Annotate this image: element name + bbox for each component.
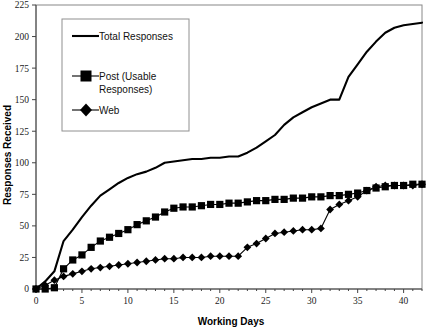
data-point-marker [308, 226, 316, 234]
x-tick-label: 30 [307, 296, 317, 306]
data-point-marker [225, 200, 232, 207]
data-point-marker [152, 256, 160, 264]
data-point-marker [317, 225, 325, 233]
data-point-marker [179, 254, 187, 262]
x-axis-ticks: 0510152025303540 [34, 289, 422, 306]
x-tick-label: 35 [353, 296, 363, 306]
data-point-marker [124, 260, 132, 268]
y-tick-label: 150 [15, 95, 30, 105]
y-tick-label: 200 [15, 32, 30, 42]
x-tick-label: 25 [261, 296, 271, 306]
x-tick-label: 5 [80, 296, 85, 306]
series-web [32, 180, 426, 293]
response-accumulation-chart: 0255075100125150175200225 05101520253035… [0, 0, 431, 332]
data-point-marker [207, 201, 214, 208]
data-point-marker [78, 251, 85, 258]
series-post-usable-responses [32, 181, 425, 293]
data-point-marker [198, 254, 206, 262]
data-point-marker [299, 226, 307, 234]
data-point-marker [51, 284, 58, 291]
data-point-marker [216, 201, 223, 208]
y-tick-label: 175 [15, 64, 30, 74]
y-tick-label: 50 [20, 221, 30, 231]
data-point-marker [69, 256, 76, 263]
data-point-marker [253, 240, 261, 248]
data-point-marker [88, 244, 95, 251]
y-tick-label: 225 [15, 0, 30, 10]
data-point-marker [106, 234, 113, 241]
data-point-marker [262, 197, 269, 204]
data-point-marker [198, 202, 205, 209]
data-point-marker [170, 205, 177, 212]
data-point-marker [207, 252, 215, 260]
data-point-marker [87, 265, 95, 273]
data-point-marker [69, 270, 77, 278]
data-point-marker [281, 196, 288, 203]
data-point-marker [271, 230, 279, 238]
data-point-marker [124, 226, 131, 233]
x-tick-label: 20 [215, 296, 225, 306]
data-point-marker [97, 237, 104, 244]
data-point-marker [280, 228, 288, 236]
x-tick-label: 40 [399, 296, 409, 306]
data-point-marker [326, 192, 333, 199]
data-point-marker [106, 262, 114, 270]
y-tick-label: 125 [15, 127, 30, 137]
data-point-marker [225, 252, 233, 260]
legend-label-web: Web [99, 105, 120, 116]
data-point-marker [179, 203, 186, 210]
data-point-marker [161, 208, 168, 215]
data-point-marker [299, 195, 306, 202]
legend-label-post-line2: Responses) [99, 84, 152, 95]
data-point-marker [335, 201, 343, 209]
data-point-marker [326, 206, 334, 214]
data-point-marker [189, 203, 196, 210]
data-point-marker [289, 227, 297, 235]
data-point-marker [133, 221, 140, 228]
x-axis-title: Working Days [198, 316, 265, 327]
data-point-marker [96, 264, 104, 272]
data-point-marker [308, 193, 315, 200]
y-tick-label: 0 [24, 284, 29, 294]
y-axis-title: Responses Received [2, 105, 13, 205]
chart-container: 0255075100125150175200225 05101520253035… [0, 0, 431, 332]
data-point-marker [235, 200, 242, 207]
data-point-marker [317, 193, 324, 200]
y-axis-ticks: 0255075100125150175200225 [15, 0, 36, 294]
y-tick-label: 25 [20, 253, 30, 263]
data-point-marker [78, 267, 86, 275]
data-point-marker [115, 261, 123, 269]
data-point-marker [142, 257, 150, 265]
data-point-marker [290, 195, 297, 202]
data-point-marker [188, 254, 196, 262]
data-point-marker [60, 265, 67, 272]
data-point-marker [216, 252, 224, 260]
data-point-marker [244, 198, 251, 205]
x-tick-label: 0 [34, 296, 39, 306]
legend-label-post-line1: Post (Usable [99, 71, 157, 82]
data-point-marker [170, 255, 178, 263]
data-point-marker [143, 217, 150, 224]
legend-square-marker-post [81, 71, 92, 82]
chart-legend: Total Responses Post (Usable Responses) … [62, 19, 189, 131]
y-tick-label: 100 [15, 158, 30, 168]
data-point-marker [253, 197, 260, 204]
legend-label-total-responses: Total Responses [99, 31, 173, 42]
data-point-marker [161, 255, 169, 263]
data-point-marker [115, 230, 122, 237]
x-tick-label: 15 [169, 296, 179, 306]
data-point-marker [152, 213, 159, 220]
data-point-marker [271, 196, 278, 203]
data-point-marker [133, 259, 141, 267]
y-tick-label: 75 [20, 190, 30, 200]
x-tick-label: 10 [123, 296, 133, 306]
data-point-marker [336, 192, 343, 199]
data-point-marker [262, 235, 270, 243]
